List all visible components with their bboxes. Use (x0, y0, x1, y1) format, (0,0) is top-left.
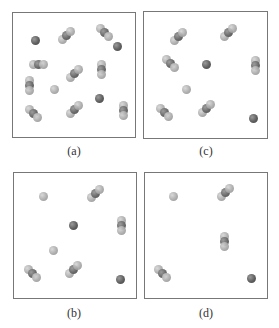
panel-label-a: (a) (54, 144, 94, 159)
atom-sphere-icon (32, 273, 41, 282)
panel-c (143, 11, 268, 139)
atom-sphere-icon (69, 221, 78, 230)
atom-sphere-icon (49, 246, 58, 255)
atom-sphere-icon (95, 185, 104, 194)
atom-sphere-icon (162, 273, 171, 282)
panel-label-b: (b) (54, 306, 94, 321)
atom-sphere-icon (117, 226, 126, 235)
atom-sphere-icon (228, 24, 237, 33)
atom-sphere-icon (39, 192, 48, 201)
atom-sphere-icon (182, 85, 191, 94)
atom-sphere-icon (113, 42, 122, 51)
atom-sphere-icon (74, 101, 83, 110)
panel-b (13, 172, 137, 299)
atom-sphere-icon (251, 66, 260, 75)
atom-sphere-icon (104, 32, 113, 41)
atom-sphere-icon (220, 242, 229, 251)
atom-sphere-icon (73, 261, 82, 270)
atom-sphere-icon (31, 36, 40, 45)
atom-sphere-icon (97, 70, 106, 79)
atom-sphere-icon (66, 27, 75, 36)
panel-label-d: (d) (186, 306, 226, 321)
atom-sphere-icon (202, 60, 211, 69)
atom-sphere-icon (74, 65, 83, 74)
atom-sphere-icon (116, 275, 125, 284)
atom-sphere-icon (39, 60, 48, 69)
atom-sphere-icon (225, 184, 234, 193)
atom-sphere-icon (247, 274, 256, 283)
panel-d (144, 172, 268, 299)
atom-sphere-icon (33, 113, 42, 122)
panel-label-c: (c) (186, 144, 226, 159)
atom-sphere-icon (25, 86, 34, 95)
atom-sphere-icon (119, 111, 128, 120)
atom-sphere-icon (164, 112, 173, 121)
atom-sphere-icon (95, 94, 104, 103)
panel-a (12, 12, 136, 138)
atom-sphere-icon (249, 114, 258, 123)
atom-sphere-icon (169, 192, 178, 201)
atom-sphere-icon (178, 28, 187, 37)
atom-sphere-icon (50, 85, 59, 94)
atom-sphere-icon (170, 63, 179, 72)
atom-sphere-icon (206, 100, 215, 109)
